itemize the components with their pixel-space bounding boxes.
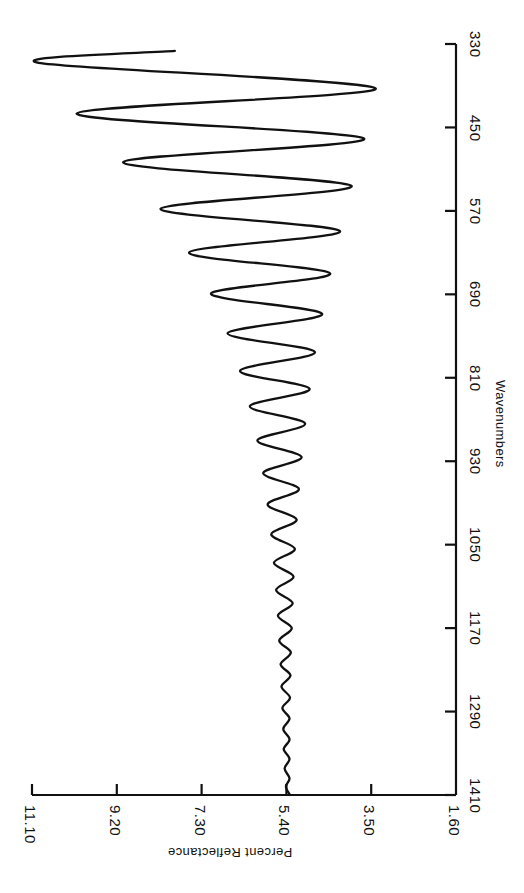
wavenumber-tick-label: 1050 [467,527,484,562]
reflectance-tick-marks [32,784,371,795]
reflectance-tick-label: 11.10 [22,805,39,844]
reflectance-tick-label: 7.30 [192,805,209,836]
wavenumber-tick-label: 930 [467,448,484,475]
reflectance-axis-title: Percent Reflectance [140,845,320,860]
wavenumber-tick-label: 330 [467,31,484,58]
reflectance-tick-label: 5.40 [276,805,293,836]
spectrum-trace [34,51,376,795]
wavenumber-tick-label: 1290 [467,694,484,729]
spectrum-plot [0,0,524,893]
reflectance-tick-label: 1.60 [446,805,463,836]
wavenumber-tick-label: 450 [467,115,484,142]
axis-lines [32,44,456,795]
wavenumber-tick-label: 810 [467,365,484,392]
reflectance-tick-label: 3.50 [361,805,378,836]
wavenumber-tick-label: 570 [467,198,484,225]
wavenumber-axis-title: Wavenumbers [493,380,508,468]
reflectance-tick-label: 9.20 [107,805,124,836]
wavenumber-tick-label: 690 [467,281,484,308]
wavenumber-tick-marks [445,44,456,795]
wavenumber-tick-label: 1170 [467,611,484,645]
wavenumber-tick-label: 1410 [467,778,484,813]
chart-figure: 3304505706908109301050117012901410 11.10… [0,0,524,893]
